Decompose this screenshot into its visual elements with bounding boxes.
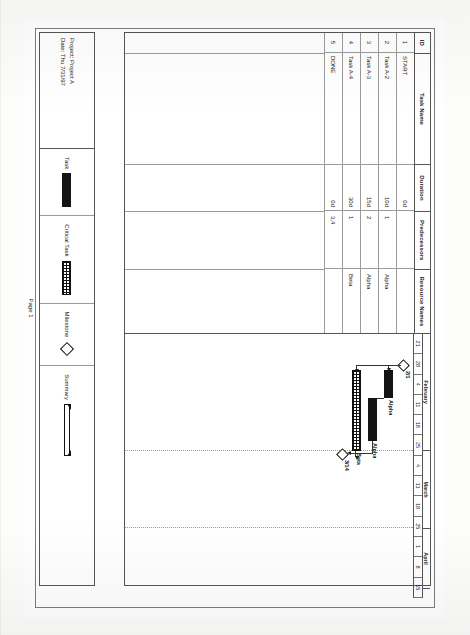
cell-id: 3: [361, 33, 378, 53]
link-a3-to-done: [372, 441, 373, 453]
page-footer: Page 1: [28, 32, 34, 584]
task-bar-a4-critical[interactable]: [352, 370, 361, 451]
table-row[interactable]: 4 Task A-4 30d 1 Beta: [342, 33, 360, 333]
gridline-month: [125, 527, 413, 528]
legend-item-summary: Summary: [40, 366, 94, 464]
column-header-resource-names[interactable]: Resource Names: [415, 269, 430, 332]
gantt-view: ID Task Name Duration Predecessors Resou…: [124, 32, 431, 586]
table-row[interactable]: 1 START 0d: [396, 33, 414, 333]
task-rows: 1 START 0d 2 Task A-2 10d 1 Alpha: [125, 33, 414, 333]
cell-duration: 0d: [397, 165, 414, 211]
legend-label-critical-task: Critical Task: [64, 224, 70, 256]
summary-bar-icon: [63, 403, 72, 455]
printed-sheet: ID Task Name Duration Predecessors Resou…: [25, 18, 445, 618]
week-tick: 4: [414, 455, 422, 475]
table-row[interactable]: 2 Task A-2 10d 1 Alpha: [378, 33, 396, 333]
cell-duration: 15d: [361, 165, 378, 211]
legend-label-task: Task: [64, 157, 70, 169]
week-tick: 28: [414, 354, 422, 374]
cell-resource: Alpha: [379, 269, 396, 333]
milestone-diamond-icon: [60, 342, 74, 356]
empty-rows-area: [125, 33, 324, 333]
project-name-line: Project: Project A: [67, 38, 76, 148]
cell-task-name: Task A-4: [343, 53, 360, 165]
link-arrow: [355, 456, 359, 460]
column-header-id[interactable]: ID: [415, 33, 430, 54]
filler-id: [125, 33, 324, 54]
filler-pred: [125, 211, 324, 269]
timescale-weeks: 21 28 4 11 18 25 4 11 18 25 1 8 15: [413, 334, 422, 598]
legend-item-critical-task: Critical Task: [40, 216, 94, 303]
timescale-months: February March April: [422, 334, 430, 598]
task-bar-a2[interactable]: [384, 370, 393, 398]
gantt-bars-area: 2/1 Alpha Alpha: [125, 334, 413, 598]
timescale-month: February: [423, 334, 430, 451]
critical-task-bar-icon: [63, 260, 72, 294]
milestone-done-label: 3/14: [344, 460, 350, 471]
week-tick: 18: [414, 415, 422, 435]
cell-id: 2: [379, 33, 396, 53]
page-number: Page 1: [28, 298, 34, 317]
cell-predecessors: 1: [379, 211, 396, 269]
week-tick: 15: [414, 577, 422, 597]
gridline-month: [125, 450, 413, 451]
cell-duration: 0d: [325, 165, 342, 211]
filler-dur: [125, 165, 324, 211]
legend-block: Project: Project A Date: Thu 7/31/97 Tas…: [39, 32, 95, 586]
week-tick: 8: [414, 557, 422, 577]
cell-task-name: Task A-3: [361, 53, 378, 165]
week-tick: 25: [414, 435, 422, 455]
scanned-page: ID Task Name Duration Predecessors Resou…: [0, 0, 470, 635]
cell-id: 1: [397, 33, 414, 53]
week-tick: 11: [414, 476, 422, 496]
cell-duration: 10d: [379, 165, 396, 211]
legend-project-info: Project: Project A Date: Thu 7/31/97: [40, 33, 94, 149]
week-tick: 25: [414, 516, 422, 536]
cell-resource: Beta: [343, 269, 360, 333]
week-tick: 18: [414, 496, 422, 516]
legend-item-task: Task: [40, 149, 94, 216]
task-sheet: ID Task Name Duration Predecessors Resou…: [125, 33, 430, 334]
milestone-start-label: 2/1: [405, 371, 411, 379]
week-tick: 4: [414, 374, 422, 394]
legend-item-milestone: Milestone: [40, 303, 94, 366]
task-sheet-header: ID Task Name Duration Predecessors Resou…: [414, 33, 430, 333]
filler-name: [125, 53, 324, 165]
cell-predecessors: 3,4: [325, 211, 342, 269]
filler-res: [125, 269, 324, 332]
cell-task-name: Task A-2: [379, 53, 396, 165]
cell-task-name: START: [397, 53, 414, 165]
cell-resource: [325, 269, 342, 333]
legend-items: Task Critical Task Milestone Summary: [40, 149, 94, 585]
task-bar-icon: [63, 173, 72, 207]
project-date-line: Date: Thu 7/31/97: [58, 38, 67, 148]
cell-predecessors: 1: [343, 211, 360, 269]
cell-duration: 30d: [343, 165, 360, 211]
timescale-month: April: [423, 529, 430, 589]
column-header-predecessors[interactable]: Predecessors: [415, 211, 430, 269]
week-tick: 1: [414, 536, 422, 556]
legend-label-summary: Summary: [64, 374, 70, 400]
cell-predecessors: [397, 211, 414, 269]
table-row[interactable]: 3 Task A-3 15d 2 Alpha: [360, 33, 378, 333]
task-bar-a2-label: Alpha: [388, 400, 394, 415]
column-header-duration[interactable]: Duration: [415, 165, 430, 211]
cell-id: 4: [343, 33, 360, 53]
column-header-task-name[interactable]: Task Name: [415, 53, 430, 165]
link-start-to-a4: [357, 364, 401, 365]
table-row[interactable]: 5 DONE 0d 3,4: [324, 33, 342, 333]
cell-resource: [397, 269, 414, 333]
timescale-month: March: [423, 451, 430, 529]
week-tick: 11: [414, 394, 422, 414]
cell-resource: Alpha: [361, 269, 378, 333]
legend-label-milestone: Milestone: [64, 311, 70, 337]
cell-task-name: DONE: [325, 53, 342, 165]
link-a3-to-done: [349, 453, 373, 454]
week-tick: 21: [414, 334, 422, 354]
cell-predecessors: 2: [361, 211, 378, 269]
cell-id: 5: [325, 33, 342, 53]
task-bar-a3[interactable]: [368, 398, 377, 441]
gantt-timescale-and-bars: February March April 21 28 4 11 18 25 4 …: [125, 334, 430, 598]
